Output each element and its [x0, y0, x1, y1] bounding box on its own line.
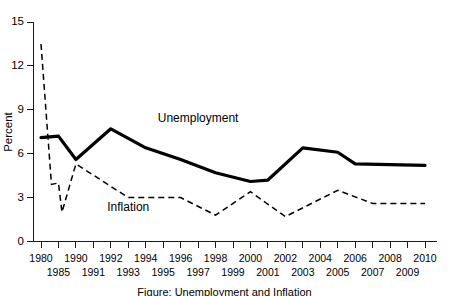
x-tick-label: 1996 — [169, 252, 193, 264]
x-tick-label: 2007 — [361, 266, 385, 278]
y-tick-label: 12 — [11, 59, 24, 71]
x-axis-tick-labels-lower: 1985199119931995199719992001200320052007… — [47, 266, 420, 278]
line-chart-canvas: 03691215 1980199019921994199619982000200… — [0, 0, 449, 296]
x-tick-label: 1993 — [117, 266, 141, 278]
x-tick-label: 2006 — [344, 252, 368, 264]
y-tick-label: 3 — [18, 191, 24, 203]
x-tick-label: 2004 — [309, 252, 333, 264]
x-tick-label: 1998 — [204, 252, 228, 264]
y-tick-label: 15 — [11, 15, 24, 27]
figure-caption: Figure: Unemployment and Inflation — [0, 286, 449, 296]
x-tick-label: 2010 — [413, 252, 437, 264]
x-tick-label: 2001 — [256, 266, 280, 278]
y-tick-label: 6 — [18, 147, 24, 159]
x-tick-label: 2003 — [291, 266, 315, 278]
x-tick-label: 1991 — [82, 266, 106, 278]
inflation-series-line — [41, 44, 425, 217]
inflation-series-label: Inflation — [107, 200, 149, 214]
unemployment-series-line — [41, 129, 425, 182]
x-tick-label: 1990 — [64, 252, 88, 264]
x-tick-label: 1999 — [221, 266, 245, 278]
x-tick-label: 1994 — [134, 252, 158, 264]
y-tick-label: 9 — [18, 103, 24, 115]
x-axis-tick-labels-upper: 1980199019921994199619982000200220042006… — [29, 252, 437, 264]
y-axis-title: Percent — [2, 111, 14, 151]
x-tick-label: 1985 — [47, 266, 71, 278]
x-tick-label: 2000 — [239, 252, 263, 264]
x-tick-label: 1995 — [152, 266, 176, 278]
x-tick-label: 1992 — [99, 252, 123, 264]
chart-figure: 03691215 1980199019921994199619982000200… — [0, 0, 449, 296]
x-tick-label: 2008 — [378, 252, 402, 264]
x-tick-label: 2002 — [274, 252, 298, 264]
x-axis-ticks — [41, 242, 425, 249]
x-tick-label: 1997 — [186, 266, 210, 278]
chart-axes — [34, 22, 438, 242]
unemployment-series-label: Unemployment — [158, 111, 239, 125]
x-tick-label: 2005 — [326, 266, 350, 278]
x-tick-label: 1980 — [29, 252, 53, 264]
y-axis-ticks — [27, 22, 34, 242]
y-tick-label: 0 — [18, 235, 24, 247]
x-tick-label: 2009 — [396, 266, 420, 278]
